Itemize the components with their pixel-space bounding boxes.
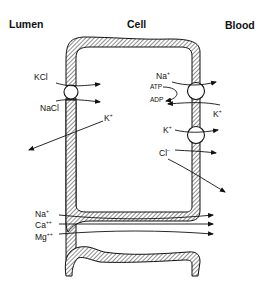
pump-k-label: K+ — [213, 108, 222, 119]
lumen-header: Lumen — [9, 18, 43, 30]
atp-label: ATP — [150, 83, 162, 90]
basolateral-k-label: K+ — [163, 124, 172, 135]
nacl-arrow — [56, 100, 100, 102]
kcl-arrow — [56, 83, 100, 86]
cl-label: Cl− — [159, 147, 170, 158]
paracellular-mg-label: Mg++ — [35, 231, 53, 242]
adjacent-cell-wall — [65, 247, 200, 276]
paracellular-ca-label: Ca++ — [35, 219, 52, 230]
adp-label: ADP — [150, 96, 163, 103]
blood-header: Blood — [225, 19, 255, 31]
atp-adp-arrow — [163, 87, 177, 101]
pump-na-label: Na+ — [156, 70, 170, 81]
luminal-cotransporter — [64, 85, 78, 99]
cell-header: Cell — [127, 18, 146, 30]
luminal-k-label: K+ — [104, 112, 113, 123]
paracellular-mg-arrow — [59, 231, 213, 234]
nacl-label: NaCl — [40, 103, 59, 113]
kcl-label: KCl — [34, 72, 48, 82]
basolateral-wall-mid — [192, 96, 200, 128]
paracellular-na-label: Na+ — [35, 208, 49, 219]
basolateral-kcl-cotransporter — [188, 127, 205, 144]
epithelial-transport-diagram: Lumen Cell Blood KCl NaCl K+ Na+ ATP ADP… — [0, 0, 270, 285]
upper-cell-wall — [66, 37, 200, 86]
lower-cell-wall — [66, 100, 200, 232]
